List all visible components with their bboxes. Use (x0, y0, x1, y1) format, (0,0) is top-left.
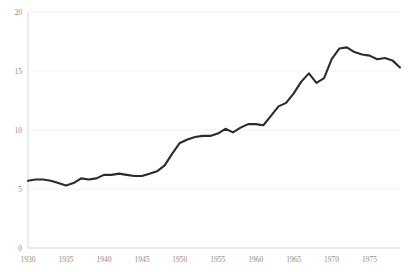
xtick-label-1955: 1955 (210, 255, 225, 264)
xtick-label-1970: 1970 (324, 255, 339, 264)
gridlines (28, 12, 400, 189)
data-series-line (28, 47, 400, 185)
ytick-label-5: 5 (18, 185, 22, 194)
xtick-label-1945: 1945 (134, 255, 149, 264)
line-chart: 20 15 10 5 0 1930 1935 1940 1945 1950 19… (0, 0, 411, 272)
xtick-label-1935: 1935 (59, 255, 74, 264)
xtick-label-1975: 1975 (362, 255, 377, 264)
ytick-label-10: 10 (15, 126, 23, 135)
xtick-label-1930: 1930 (21, 255, 36, 264)
xtick-label-1940: 1940 (96, 255, 111, 264)
xtick-label-1950: 1950 (172, 255, 187, 264)
ytick-label-15: 15 (15, 67, 23, 76)
chart-canvas: 20 15 10 5 0 1930 1935 1940 1945 1950 19… (0, 0, 411, 272)
xtick-label-1965: 1965 (286, 255, 301, 264)
ytick-label-0: 0 (18, 244, 22, 253)
xtick-label-1960: 1960 (248, 255, 263, 264)
x-axis-tick-labels: 1930 1935 1940 1945 1950 1955 1960 1965 … (21, 255, 378, 264)
y-axis-tick-labels: 20 15 10 5 0 (15, 8, 23, 253)
ytick-label-20: 20 (15, 8, 23, 17)
